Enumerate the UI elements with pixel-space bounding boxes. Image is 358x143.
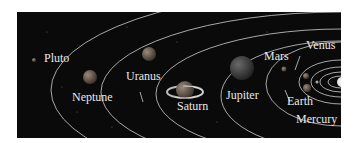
label-saturn: Saturn (177, 100, 208, 112)
label-venus: Venus (306, 39, 335, 51)
mars-icon (282, 67, 287, 72)
label-mars: Mars (264, 50, 289, 62)
label-pluto: Pluto (44, 52, 69, 64)
mercury-icon (316, 81, 319, 84)
venus-icon (303, 73, 309, 79)
saturn-icon (167, 81, 203, 99)
solar-system-illustration: Pluto Neptune Uranus Saturn Jupiter Mars… (17, 12, 341, 138)
pluto-icon (32, 58, 36, 62)
label-mercury: Mercury (296, 113, 337, 125)
earth-icon (303, 84, 311, 92)
label-earth: Earth (287, 95, 313, 107)
label-jupiter: Jupiter (226, 89, 259, 101)
sun-icon (337, 77, 341, 87)
label-neptune: Neptune (72, 91, 113, 103)
jupiter-icon (230, 56, 254, 80)
neptune-icon (83, 70, 97, 84)
orbits-diagram (17, 12, 341, 138)
uranus-icon (142, 47, 156, 61)
label-uranus: Uranus (126, 70, 161, 82)
